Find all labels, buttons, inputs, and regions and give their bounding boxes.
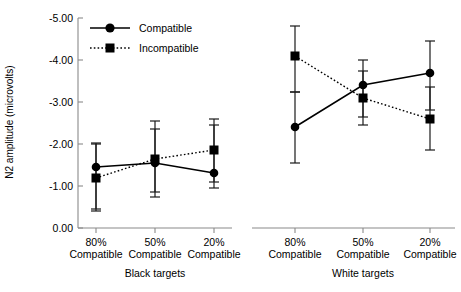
chart-figure: N2 amplitude (microvolts) -5.00 -4.00 -3… [0,0,461,292]
panel-white-targets: 80% Compatible 50% Compatible 20% Compat… [252,26,457,279]
legend-label-compatible: Compatible [139,22,192,34]
y-axis [78,18,83,228]
panel-title-white-targets: White targets [332,267,394,279]
x-tick-label-left-2-top: 20% [203,236,224,248]
panel-title-black-targets: Black targets [125,267,186,279]
circle-marker-icon [105,23,114,32]
y-tick-label-2: -3.00 [49,96,73,108]
y-tick-label-5: 0.00 [53,222,74,234]
x-tick-label-right-0-top: 80% [284,236,305,248]
x-tick-label-right-2-bottom: Compatible [403,248,456,260]
x-tick-label-right-1-top: 50% [352,236,373,248]
chart-legend: Compatible Incompatible [90,22,199,54]
panel-black-targets: 80% Compatible 50% Compatible 20% Compat… [69,119,240,279]
x-tick-label-left-2-bottom: Compatible [187,248,240,260]
y-tick-label-1: -4.00 [49,54,73,66]
y-tick-label-0: -5.00 [49,12,73,24]
x-tick-label-left-0-top: 80% [85,236,106,248]
x-tick-label-left-1-top: 50% [144,236,165,248]
x-tick-label-right-2-top: 20% [419,236,440,248]
x-tick-label-right-0-bottom: Compatible [268,248,321,260]
y-axis-title: N2 amplitude (microvolts) [4,65,15,178]
x-axis-left [78,228,232,233]
legend-entry-incompatible[interactable]: Incompatible [90,42,199,54]
y-tick-label-3: -2.00 [49,138,73,150]
x-tick-label-right-1-bottom: Compatible [336,248,389,260]
x-tick-label-left-0-bottom: Compatible [69,248,122,260]
legend-label-incompatible: Incompatible [139,42,199,54]
legend-entry-compatible[interactable]: Compatible [90,22,192,34]
x-tick-label-left-1-bottom: Compatible [128,248,181,260]
x-axis-right [252,228,455,233]
y-tick-label-4: -1.00 [49,180,73,192]
square-marker-icon [106,44,115,53]
chart-canvas: N2 amplitude (microvolts) -5.00 -4.00 -3… [0,0,461,292]
